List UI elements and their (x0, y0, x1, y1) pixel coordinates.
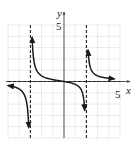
curve-middle-branch (32, 37, 85, 110)
curve-right-branch (88, 50, 114, 79)
rational-function-graph: y 5 5 x (0, 0, 138, 151)
y-axis-label: y (56, 7, 62, 19)
x-axis-label: x (125, 84, 131, 96)
function-curves (8, 37, 114, 127)
curve-left-branch (8, 86, 29, 128)
x-tick-label-5: 5 (115, 88, 121, 100)
y-tick-label-5: 5 (56, 20, 62, 32)
axes (6, 12, 130, 138)
